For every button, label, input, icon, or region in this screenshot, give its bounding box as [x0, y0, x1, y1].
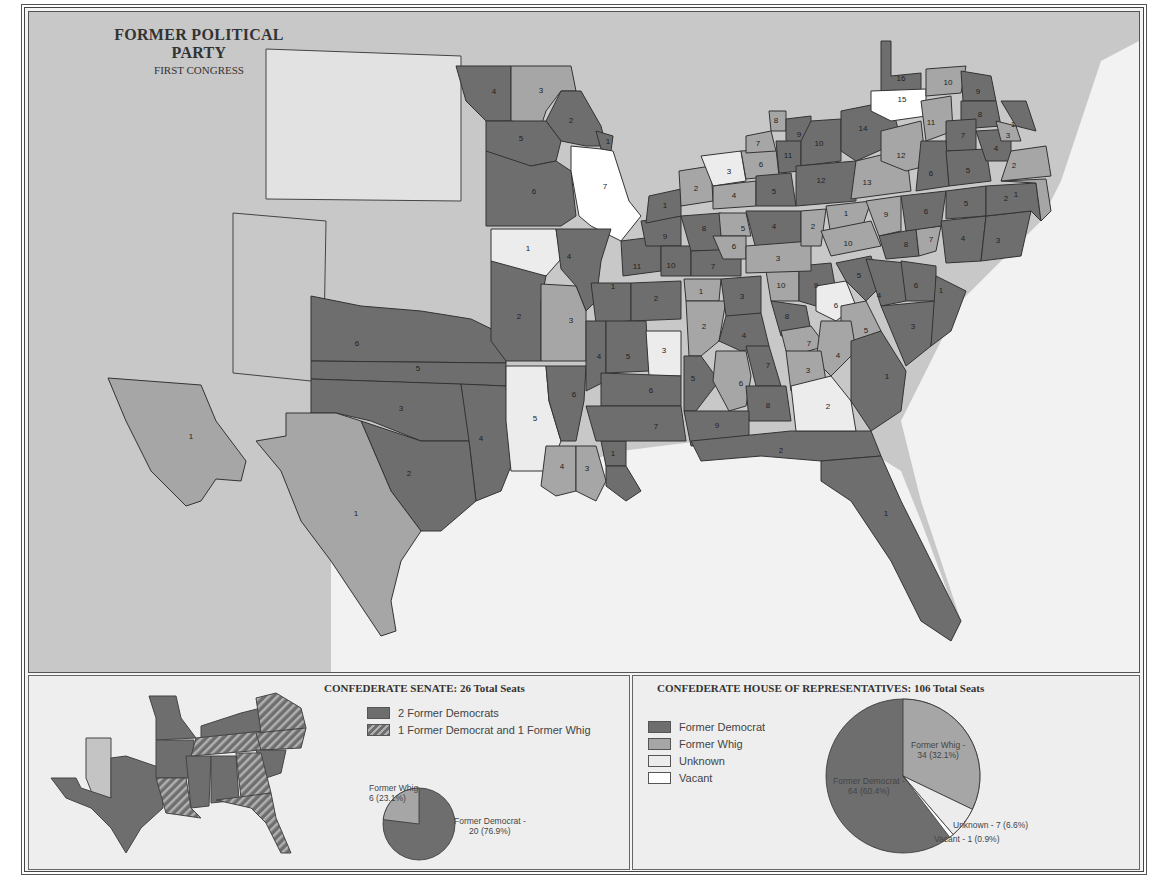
svg-text:2: 2 [569, 116, 574, 125]
svg-text:11: 11 [633, 262, 642, 271]
svg-text:5: 5 [416, 364, 421, 373]
district-va-6 [916, 141, 949, 191]
district-tx-6 [311, 296, 506, 363]
svg-text:5: 5 [519, 134, 524, 143]
swatch-unknown [648, 755, 671, 767]
svg-text:7: 7 [711, 262, 716, 271]
svg-text:2: 2 [654, 294, 659, 303]
district-map: 43 21 56 7 14 23 56 43 1 12 45 36 7 12 3… [29, 12, 1139, 672]
svg-text:4: 4 [492, 87, 497, 96]
svg-text:2: 2 [826, 402, 831, 411]
map-title: FORMER POLITICAL PARTY [89, 26, 309, 62]
svg-text:2: 2 [694, 184, 699, 193]
senate-legend-item-mixed: 1 Former Democrat and 1 Former Whig [367, 721, 591, 738]
svg-text:6: 6 [759, 160, 764, 169]
svg-text:6: 6 [572, 390, 577, 399]
svg-text:1: 1 [354, 509, 359, 518]
svg-text:4: 4 [732, 191, 737, 200]
inset-florida [216, 793, 291, 853]
svg-text:1: 1 [939, 286, 944, 295]
inset-alabama [211, 756, 239, 803]
svg-text:2: 2 [811, 222, 816, 231]
district-ky-12 [796, 161, 856, 206]
svg-text:2: 2 [779, 446, 784, 455]
district-al-6 [713, 351, 751, 411]
svg-text:8: 8 [978, 110, 983, 119]
svg-text:6: 6 [739, 379, 744, 388]
svg-text:3: 3 [1006, 131, 1011, 140]
district-al-5 [684, 356, 719, 411]
svg-text:1: 1 [1014, 190, 1019, 199]
senate-legend: 2 Former Democrats 1 Former Democrat and… [367, 704, 591, 738]
inset-missouri [149, 696, 196, 740]
svg-text:1: 1 [189, 432, 194, 441]
senate-panel: CONFEDERATE SENATE: 26 Total Seats 2 For… [28, 675, 630, 870]
district-ga-2 [791, 376, 856, 431]
district-ms-6 [601, 373, 681, 406]
svg-text:13: 13 [863, 178, 872, 187]
svg-text:4: 4 [877, 291, 882, 300]
svg-text:3: 3 [569, 316, 574, 325]
svg-text:10: 10 [944, 78, 953, 87]
svg-text:7: 7 [756, 139, 761, 148]
house-legend-item-whig: Former Whig [648, 735, 765, 752]
district-ky-7 [746, 131, 776, 153]
house-label-democrat: Former Democrat - 64 (60.4%) [833, 776, 905, 796]
district-al-7 [746, 346, 781, 386]
svg-text:1: 1 [611, 282, 616, 291]
svg-text:1: 1 [526, 244, 531, 253]
district-va-16 [881, 41, 921, 91]
district-mo-1 [596, 131, 613, 151]
svg-text:12: 12 [897, 151, 906, 160]
district-mo-4 [456, 66, 511, 121]
svg-text:1: 1 [885, 372, 890, 381]
senate-legend-item-democrats: 2 Former Democrats [367, 704, 591, 721]
district-ms-7 [586, 406, 686, 441]
svg-text:1: 1 [884, 509, 889, 518]
svg-text:11: 11 [927, 118, 936, 127]
svg-text:7: 7 [766, 361, 771, 370]
svg-text:6: 6 [732, 242, 737, 251]
svg-text:7: 7 [807, 339, 812, 348]
svg-text:3: 3 [740, 292, 745, 301]
svg-text:4: 4 [994, 144, 999, 153]
house-label-vacant: Vacant - 1 (0.9%) [934, 834, 1000, 844]
svg-text:1: 1 [606, 137, 611, 146]
map-title-block: FORMER POLITICAL PARTY FIRST CONGRESS [89, 26, 309, 76]
svg-text:8: 8 [774, 116, 779, 125]
svg-text:2: 2 [1004, 194, 1009, 203]
svg-text:3: 3 [776, 254, 781, 263]
house-legend: Former Democrat Former Whig Unknown Vaca… [648, 718, 765, 786]
svg-text:6: 6 [924, 207, 929, 216]
svg-text:6: 6 [532, 187, 537, 196]
inset-virginia [256, 693, 306, 733]
svg-text:9: 9 [814, 281, 819, 290]
svg-text:1: 1 [611, 449, 616, 458]
district-az-1 [108, 378, 246, 506]
svg-text:10: 10 [777, 281, 786, 290]
svg-text:3: 3 [585, 464, 590, 473]
swatch-democrat [367, 707, 390, 719]
svg-text:7: 7 [929, 235, 934, 244]
svg-text:2: 2 [517, 312, 522, 321]
svg-text:2: 2 [407, 469, 412, 478]
svg-text:7: 7 [654, 422, 659, 431]
svg-text:1: 1 [1011, 120, 1016, 129]
house-panel: CONFEDERATE HOUSE OF REPRESENTATIVES: 10… [632, 675, 1140, 870]
senate-label-democrat: Former Democrat - 20 (76.9%) [454, 816, 526, 836]
senate-label-whig: Former Whig - 6 (23.1%) [369, 783, 423, 803]
svg-text:9: 9 [715, 421, 720, 430]
svg-text:9: 9 [884, 210, 889, 219]
svg-text:5: 5 [741, 224, 746, 233]
senate-inset-map [31, 678, 321, 868]
house-label-whig: Former Whig - 34 (32.1%) [911, 740, 965, 760]
svg-text:11: 11 [784, 151, 793, 160]
svg-text:8: 8 [785, 312, 790, 321]
svg-text:12: 12 [817, 176, 826, 185]
district-sc-6 [901, 261, 936, 301]
swatch-democrat [648, 721, 671, 733]
svg-text:16: 16 [897, 74, 906, 83]
svg-text:9: 9 [797, 130, 802, 139]
svg-text:9: 9 [976, 87, 981, 96]
svg-text:7: 7 [961, 131, 966, 140]
